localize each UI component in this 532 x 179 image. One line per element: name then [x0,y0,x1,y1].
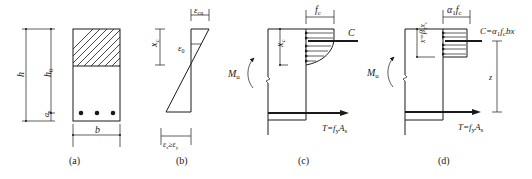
stress-curve [306,29,334,65]
label-a1fc: α1fc [447,4,462,17]
label-h0: h0 [42,68,55,77]
stress-arrows [445,33,466,54]
moment-arrow [388,57,394,87]
tension-arrowhead [472,109,481,115]
label-fc: fc [315,4,321,17]
label-Mu: Mu [366,67,379,80]
break-mark [403,75,407,81]
panel-c-actual-stress: fc C xc Mu [227,4,358,167]
label-x: x=β1xc [418,21,428,44]
caption-d: (d) [438,155,450,167]
compression-zone-hatch [56,29,156,66]
label-T: T=fyAs [458,122,484,134]
panel-d-equivalent-stress: α1fc C=α1fcbx x=β1xc [366,4,514,167]
label-es-condition: εs≥εy [163,140,179,150]
stress-arrows [308,33,333,61]
strain-profile [166,29,209,112]
figure: h h0 as [0,0,532,179]
label-C: C=α1fcbx [480,26,514,38]
label-Mu: Mu [227,68,240,81]
label-xc: xc [148,39,161,48]
label-z: z [488,73,493,82]
caption-c: (c) [298,155,309,167]
label-ecu: εcu [194,5,203,16]
break-mark [266,77,270,83]
label-e0: ε0 [178,43,185,54]
dimension-z [492,41,502,112]
caption-a: (a) [69,155,80,167]
panel-b-strain: εcu ε0 xc εs≥εy (b) [148,5,209,167]
section-outline [73,29,120,121]
panel-a-cross-section: h h0 as [15,28,156,167]
rebar-dot [79,111,84,116]
label-T: T=fyAs [322,123,348,135]
label-h: h [15,72,26,77]
tension-arrowhead [340,110,349,116]
rebar-dot [95,111,100,116]
rebar-dot [111,111,116,116]
label-C: C [348,27,355,38]
label-b: b [95,124,100,135]
moment-arrow [248,58,254,88]
label-xc: xc [274,39,287,48]
label-as: as [42,110,52,117]
caption-b: (b) [176,155,188,167]
